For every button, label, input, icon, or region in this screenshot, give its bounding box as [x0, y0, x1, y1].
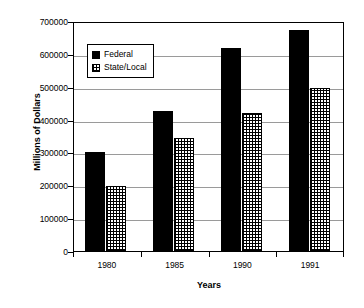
x-axis-tick: [343, 252, 344, 257]
y-axis-tick-label: 400000: [0, 117, 68, 125]
bar-1985-state-local: [174, 138, 194, 251]
legend-item-state-local: State/Local: [92, 61, 147, 74]
y-axis-tick: [68, 153, 73, 154]
x-axis-label: Years: [73, 280, 345, 290]
y-axis-tick-label: 0: [0, 248, 68, 256]
bar-1991-federal: [289, 30, 309, 251]
legend-label-federal: Federal: [104, 50, 133, 59]
y-axis-tick: [68, 219, 73, 220]
legend-swatch-state-local-icon: [92, 64, 100, 72]
y-axis-tick: [68, 22, 73, 23]
x-axis-tick: [73, 252, 74, 257]
x-axis-tick: [276, 252, 277, 257]
bar-1990-federal: [221, 48, 241, 251]
x-axis-tick-label: 1990: [212, 260, 272, 270]
x-axis-tick-label: 1980: [77, 260, 137, 270]
legend-swatch-federal-icon: [92, 51, 100, 59]
y-axis-tick-label: 700000: [0, 18, 68, 26]
y-axis-tick: [68, 55, 73, 56]
x-axis-tick: [209, 252, 210, 257]
y-axis-tick-label: 200000: [0, 182, 68, 190]
y-axis-tick: [68, 121, 73, 122]
legend: Federal State/Local: [87, 44, 154, 78]
bar-1980-federal: [85, 152, 105, 251]
y-axis-tick-label: 600000: [0, 51, 68, 59]
bar-1991-state-local: [310, 88, 330, 251]
x-axis-tick-label: 1985: [145, 260, 205, 270]
bar-1990-state-local: [242, 113, 262, 251]
x-axis-tick-label: 1991: [280, 260, 340, 270]
bar-chart: Millions of Dollars Years Federal State/…: [0, 0, 364, 308]
y-axis-tick: [68, 88, 73, 89]
y-axis-tick-label: 500000: [0, 84, 68, 92]
y-axis-tick-label: 300000: [0, 149, 68, 157]
y-axis-tick: [68, 186, 73, 187]
legend-item-federal: Federal: [92, 48, 147, 61]
x-axis-tick: [141, 252, 142, 257]
bar-1980-state-local: [106, 186, 126, 251]
y-axis-tick-label: 100000: [0, 215, 68, 223]
bar-1985-federal: [153, 111, 173, 251]
legend-label-state-local: State/Local: [104, 63, 147, 72]
